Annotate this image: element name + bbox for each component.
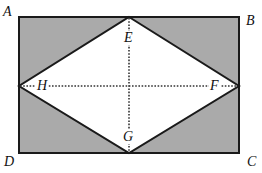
vertex-label-a: A [3, 5, 12, 19]
vertex-label-d: D [4, 155, 14, 169]
midpoint-label-f: F [209, 79, 220, 93]
vertex-label-c: C [247, 155, 256, 169]
midpoint-label-h: H [36, 79, 48, 93]
vertex-label-b: B [246, 14, 255, 28]
midpoint-label-e: E [123, 31, 134, 45]
midpoint-label-g: G [122, 130, 134, 144]
